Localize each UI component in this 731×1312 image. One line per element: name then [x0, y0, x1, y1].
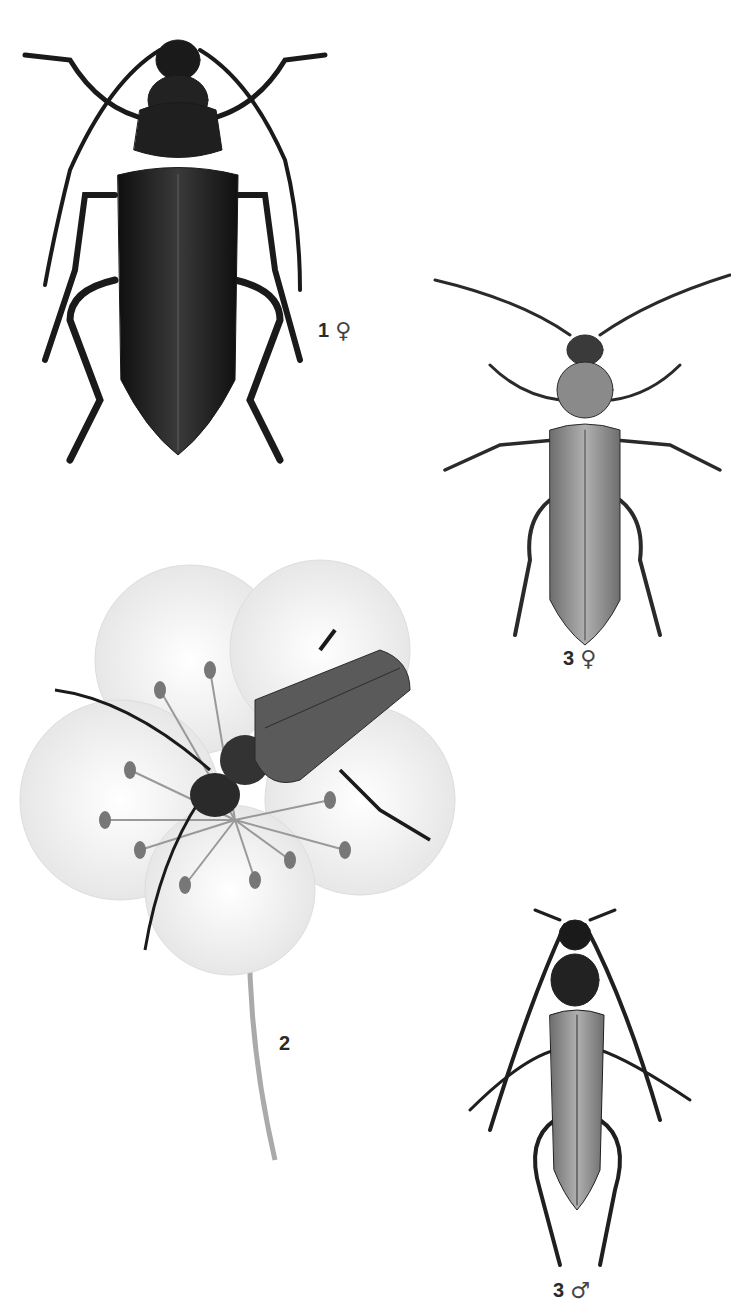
female-symbol-icon: ♀ [580, 646, 596, 671]
figure-label-3-female: 3 ♀ [563, 646, 596, 671]
beetle-figure-1 [25, 40, 325, 460]
figure-label-2: 2 [279, 1032, 290, 1055]
figure-label-1: 1 ♀ [318, 318, 351, 343]
beetle-figure-3-female [435, 275, 730, 645]
figure-number: 3 [563, 647, 574, 670]
beetle-figure-3-male [470, 910, 690, 1265]
male-symbol-icon: ♂ [570, 1278, 590, 1303]
figure-number: 2 [279, 1032, 290, 1055]
beetle-illustrations [0, 0, 731, 1312]
figure-number: 1 [318, 319, 329, 342]
figure-label-3-male: 3 ♂ [553, 1278, 590, 1303]
illustration-plate: 1 ♀ 3 ♀ 2 3 ♂ [0, 0, 731, 1312]
flower-with-beetle-figure-2 [20, 560, 455, 1160]
figure-number: 3 [553, 1279, 564, 1302]
female-symbol-icon: ♀ [335, 318, 351, 343]
